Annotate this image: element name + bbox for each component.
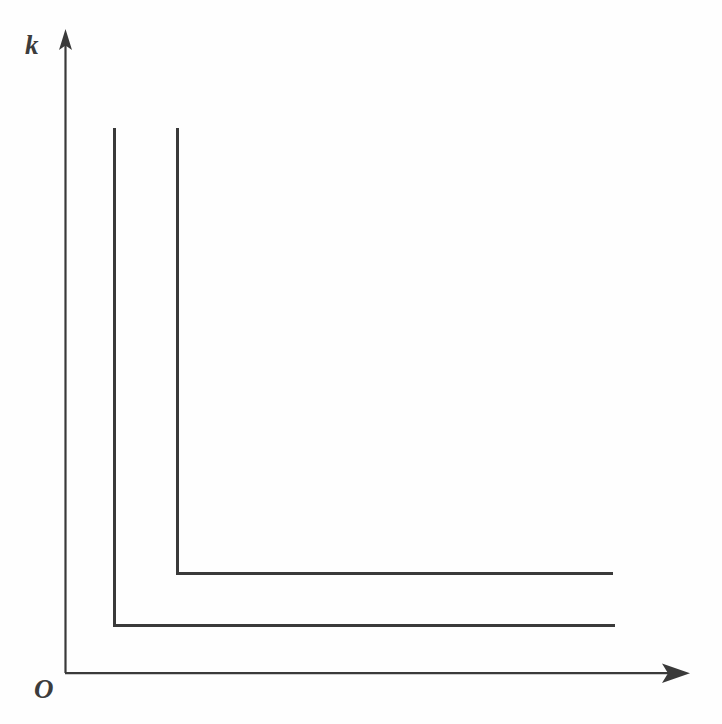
y-axis: [59, 29, 72, 673]
origin-label: O: [34, 676, 54, 703]
x-axis: [65, 664, 690, 684]
isoquant-lower-path: [115, 128, 616, 626]
isoquant-lower: [115, 128, 616, 626]
y-axis-label: k: [25, 32, 39, 59]
isoquant-figure: k O: [0, 0, 722, 724]
figure-canvas: [0, 0, 722, 724]
isoquant-upper-path: [178, 128, 614, 574]
isoquant-upper: [178, 128, 614, 574]
